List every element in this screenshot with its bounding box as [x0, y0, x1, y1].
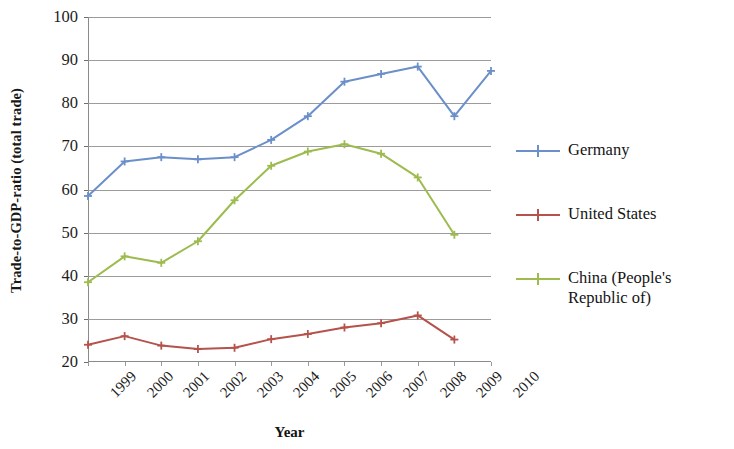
- data-point-marker: [157, 342, 165, 350]
- y-tick-label: 40: [62, 266, 79, 286]
- x-tick-label: 1999: [107, 368, 140, 401]
- x-tick-label: 2006: [363, 368, 396, 401]
- legend-label: China (People's Republic of): [568, 268, 718, 308]
- x-tick-label: 2008: [437, 368, 470, 401]
- data-point-marker: [340, 324, 348, 332]
- data-point-marker: [231, 153, 239, 161]
- legend-entry[interactable]: United States: [516, 204, 730, 224]
- y-axis-tick-labels: 1009080706050403020: [34, 0, 82, 380]
- series-lines: [88, 17, 491, 362]
- legend-entry[interactable]: Germany: [516, 140, 730, 160]
- data-point-marker: [304, 330, 312, 338]
- y-tick-label: 20: [62, 352, 79, 372]
- series-line-germany: [88, 67, 491, 196]
- x-tick-mark: [491, 362, 492, 366]
- x-tick-label: 2010: [510, 368, 543, 401]
- legend-entry[interactable]: China (People's Republic of): [516, 268, 730, 308]
- legend-swatch-icon: [516, 142, 560, 160]
- data-point-marker: [377, 319, 385, 327]
- x-axis-title: Year: [88, 424, 491, 441]
- x-tick-label: 2005: [327, 368, 360, 401]
- x-tick-label: 2000: [143, 368, 176, 401]
- y-tick-label: 100: [53, 7, 78, 27]
- data-point-marker: [194, 345, 202, 353]
- legend-label: Germany: [568, 140, 629, 160]
- x-tick-label: 2007: [400, 368, 433, 401]
- y-axis-title: Trade-to-GDP-ratio (total trade): [9, 87, 26, 292]
- chart-legend: GermanyUnited StatesChina (People's Repu…: [516, 140, 730, 352]
- x-tick-label: 2001: [180, 368, 213, 401]
- data-point-marker: [121, 332, 129, 340]
- data-point-marker: [157, 153, 165, 161]
- data-point-marker: [194, 155, 202, 163]
- data-point-marker: [267, 335, 275, 343]
- y-tick-label: 60: [62, 180, 79, 200]
- y-axis-title-container: Trade-to-GDP-ratio (total trade): [0, 0, 34, 380]
- x-tick-label: 2002: [217, 368, 250, 401]
- y-tick-label: 90: [62, 50, 79, 70]
- y-tick-label: 80: [62, 93, 79, 113]
- y-tick-label: 50: [62, 223, 79, 243]
- data-point-marker: [377, 70, 385, 78]
- data-point-marker: [231, 344, 239, 352]
- y-tick-label: 30: [62, 309, 79, 329]
- legend-swatch-icon: [516, 270, 560, 288]
- data-point-marker: [304, 148, 312, 156]
- x-tick-label: 2009: [473, 368, 506, 401]
- x-tick-label: 2003: [253, 368, 286, 401]
- x-tick-label: 2004: [290, 368, 323, 401]
- plot-area: [88, 17, 491, 362]
- legend-swatch-icon: [516, 206, 560, 224]
- x-axis-tick-labels: 1999200020012002200320042005200620072008…: [88, 366, 491, 420]
- y-tick-label: 70: [62, 136, 79, 156]
- legend-label: United States: [568, 204, 656, 224]
- data-point-marker: [340, 140, 348, 148]
- series-line-united-states: [88, 315, 454, 349]
- chart-figure: Trade-to-GDP-ratio (total trade) 1009080…: [0, 0, 734, 449]
- data-point-marker: [84, 341, 92, 349]
